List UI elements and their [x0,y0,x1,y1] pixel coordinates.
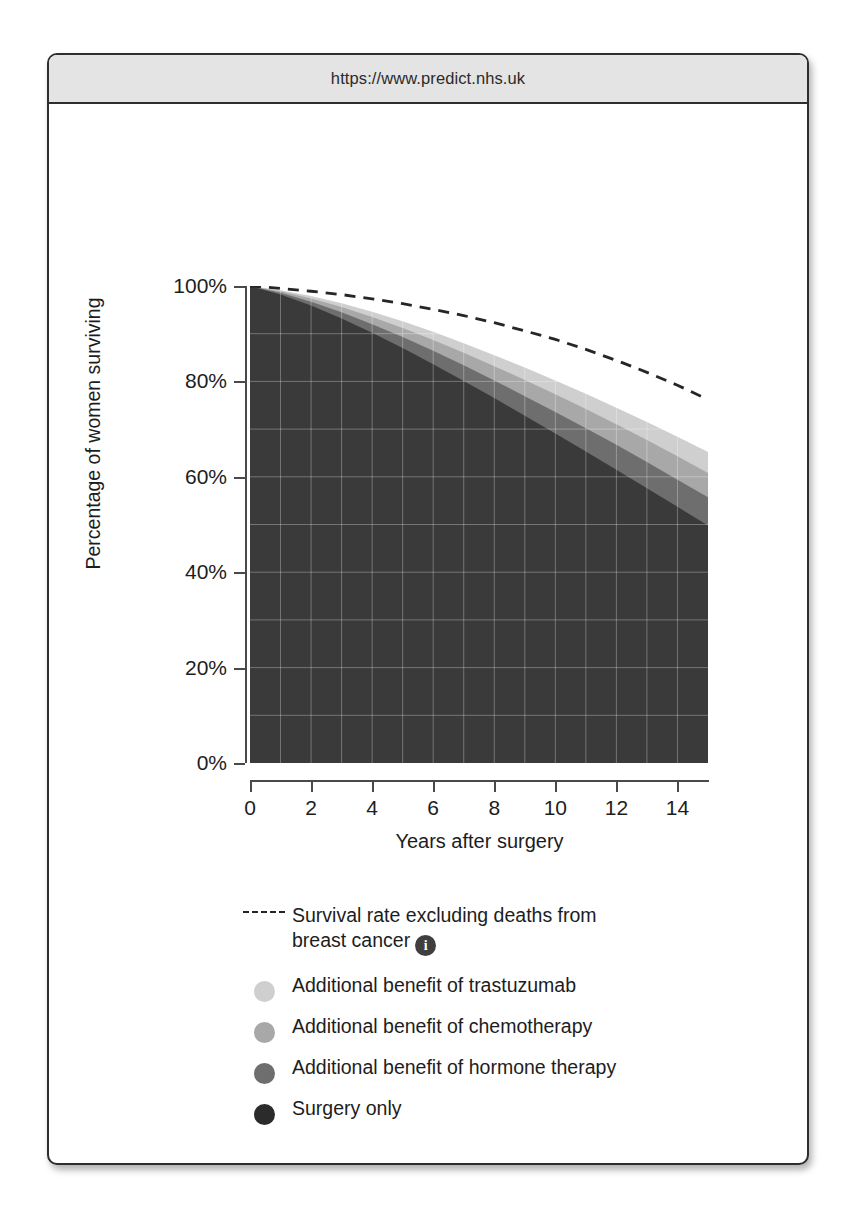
chart-legend: Survival rate excluding deaths from brea… [236,902,756,1136]
info-icon[interactable]: i [415,935,436,956]
x-tick-label: 14 [647,796,707,820]
y-axis-line [245,286,247,763]
y-tick [234,763,245,765]
x-tick-label: 12 [586,796,646,820]
legend-item-chemotherapy[interactable]: Additional benefit of chemotherapy [236,1013,756,1043]
x-tick-label: 0 [220,796,280,820]
x-tick [311,780,313,792]
legend-label-line1: Survival rate excluding deaths from [292,904,597,926]
x-tick [677,780,679,792]
x-tick-label: 8 [464,796,524,820]
legend-label: Additional benefit of chemotherapy [292,1013,592,1039]
dashed-line-swatch [236,902,292,913]
url-text: https://www.predict.nhs.uk [331,69,525,88]
legend-label: Surgery only [292,1095,401,1121]
x-tick [616,780,618,792]
screenshot-root: https://www.predict.nhs.uk Percentage of… [0,0,857,1232]
y-tick [234,286,245,288]
y-tick [234,668,245,670]
plot-svg [250,286,708,763]
y-tick-label: 20% [107,656,227,680]
y-axis-label: Percentage of women surviving [82,284,105,584]
y-tick [234,381,245,383]
legend-item-surgery-only[interactable]: Surgery only [236,1095,756,1125]
url-bar[interactable]: https://www.predict.nhs.uk [49,55,807,104]
y-tick [234,572,245,574]
x-axis-line [250,780,709,782]
legend-label: Additional benefit of trastuzumab [292,972,576,998]
x-tick-label: 2 [281,796,341,820]
browser-window: https://www.predict.nhs.uk Percentage of… [47,53,809,1165]
x-tick-label: 6 [403,796,463,820]
legend-item-trastuzumab[interactable]: Additional benefit of trastuzumab [236,972,756,1002]
color-swatch [236,1013,292,1043]
color-swatch [236,1054,292,1084]
x-tick-label: 10 [525,796,585,820]
legend-label-line2: breast cancer [292,929,410,951]
legend-item-survival-excluding-breast-cancer[interactable]: Survival rate excluding deaths from brea… [236,902,756,956]
y-tick-label: 80% [107,369,227,393]
x-tick [555,780,557,792]
legend-label: Additional benefit of hormone therapy [292,1054,616,1080]
x-tick [250,780,252,792]
x-tick [433,780,435,792]
x-tick [494,780,496,792]
legend-item-hormone-therapy[interactable]: Additional benefit of hormone therapy [236,1054,756,1084]
x-tick-label: 4 [342,796,402,820]
x-tick [372,780,374,792]
y-tick-label: 100% [107,274,227,298]
color-swatch [236,1095,292,1125]
legend-label: Survival rate excluding deaths from brea… [292,902,597,956]
y-tick-label: 0% [107,751,227,775]
x-axis-label: Years after surgery [250,830,709,853]
plot-area [250,286,708,763]
y-tick [234,477,245,479]
survival-chart: Percentage of women surviving 100% 80% 6… [49,104,807,1163]
y-tick-label: 60% [107,465,227,489]
y-tick-label: 40% [107,560,227,584]
color-swatch [236,972,292,1002]
